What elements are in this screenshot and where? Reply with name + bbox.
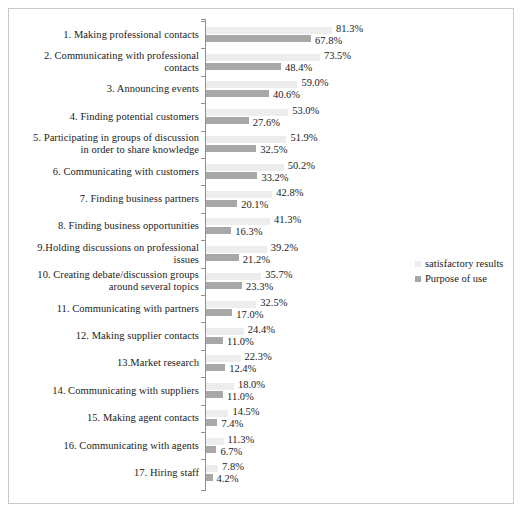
legend-item: satisfactory results (415, 257, 511, 272)
bar-pair: 51.9%32.5% (206, 131, 515, 158)
bar-pair: 18.0%11.0% (206, 377, 515, 404)
bar-purpose-of-use (206, 446, 216, 453)
bar-value-label: 7.8% (222, 462, 244, 473)
bar-pair: 42.8%20.1% (206, 185, 515, 212)
bar-value-label: 33.2% (261, 173, 288, 184)
bar-purpose-of-use (206, 309, 232, 316)
category-label: 3. Announcing events (23, 83, 199, 95)
bar-purpose-of-use (206, 364, 225, 371)
bar-row: 5. Participating in groups of discussion… (9, 131, 515, 158)
bar-row: 3. Announcing events59.0%40.6% (9, 76, 515, 103)
bar-satisfactory-results (206, 328, 244, 335)
bar-value-label: 27.6% (253, 118, 280, 129)
bar-pair: 14.5%7.4% (206, 405, 515, 432)
category-label: 4. Finding potential customers (23, 111, 199, 123)
bar-purpose-of-use (206, 254, 239, 261)
bar-value-label: 4.2% (217, 474, 239, 485)
axis-cap-top (201, 19, 206, 20)
category-label: 15. Making agent contacts (23, 412, 199, 424)
bar-purpose-of-use (206, 35, 311, 42)
bar-pair: 81.3%67.8% (206, 21, 515, 48)
bar-value-label: 14.5% (232, 407, 259, 418)
bar-value-label: 16.3% (235, 227, 262, 238)
bar-pair: 59.0%40.6% (206, 76, 515, 103)
bar-pair: 50.2%33.2% (206, 158, 515, 185)
bar-value-label: 17.0% (236, 310, 263, 321)
category-label: 9.Holding discussions on professional is… (23, 242, 199, 266)
bar-value-label: 67.8% (315, 36, 342, 47)
bar-row: 2. Communicating with professional conta… (9, 48, 515, 75)
bar-row: 7. Finding business partners42.8%20.1% (9, 185, 515, 212)
bar-value-label: 53.0% (292, 106, 319, 117)
category-label: 14. Communicating with suppliers (23, 385, 199, 397)
bar-pair: 22.3%12.4% (206, 350, 515, 377)
bar-row: 4. Finding potential customers53.0%27.6% (9, 103, 515, 130)
bar-value-label: 51.9% (290, 133, 317, 144)
bar-satisfactory-results (206, 410, 228, 417)
bar-value-label: 7.4% (221, 419, 243, 430)
bar-purpose-of-use (206, 200, 237, 207)
bar-value-label: 6.7% (220, 447, 242, 458)
bar-pair: 11.3%6.7% (206, 432, 515, 459)
legend-swatch-icon (415, 276, 421, 282)
legend-swatch-icon (415, 261, 421, 267)
category-label: 7. Finding business partners (23, 193, 199, 205)
legend-item: Purpose of use (415, 272, 511, 287)
category-label: 16. Communicating with agents (23, 440, 199, 452)
category-label: 10. Creating debate/discussion groups ar… (23, 269, 199, 293)
category-label: 12. Making supplier contacts (23, 330, 199, 342)
bar-satisfactory-results (206, 465, 218, 472)
bar-value-label: 22.3% (245, 352, 272, 363)
bar-satisfactory-results (206, 246, 267, 253)
bar-value-label: 39.2% (271, 243, 298, 254)
bar-satisfactory-results (206, 164, 284, 171)
bar-value-label: 73.5% (324, 51, 351, 62)
bar-row: 13.Market research22.3%12.4% (9, 350, 515, 377)
bar-satisfactory-results (206, 136, 286, 143)
bar-pair: 41.3%16.3% (206, 213, 515, 240)
bar-value-label: 11.0% (227, 337, 254, 348)
bar-value-label: 42.8% (276, 188, 303, 199)
bar-purpose-of-use (206, 90, 269, 97)
bar-row: 6. Communicating with customers50.2%33.2… (9, 158, 515, 185)
category-label: 17. Hiring staff (23, 467, 199, 479)
bar-satisfactory-results (206, 301, 256, 308)
bar-satisfactory-results (206, 383, 234, 390)
bar-row: 8. Finding business opportunities41.3%16… (9, 213, 515, 240)
bar-value-label: 35.7% (265, 270, 292, 281)
bar-purpose-of-use (206, 337, 223, 344)
bar-purpose-of-use (206, 227, 231, 234)
bar-satisfactory-results (206, 27, 332, 34)
bar-purpose-of-use (206, 391, 223, 398)
bar-row: 16. Communicating with agents11.3%6.7% (9, 432, 515, 459)
bar-row: 14. Communicating with suppliers18.0%11.… (9, 377, 515, 404)
bar-pair: 73.5%48.4% (206, 48, 515, 75)
chart-legend: satisfactory results Purpose of use (415, 257, 511, 287)
bar-satisfactory-results (206, 191, 272, 198)
bar-value-label: 21.2% (243, 255, 270, 266)
bar-satisfactory-results (206, 218, 270, 225)
bar-value-label: 40.6% (273, 90, 300, 101)
bar-value-label: 20.1% (241, 200, 268, 211)
bar-pair: 24.4%11.0% (206, 322, 515, 349)
bar-satisfactory-results (206, 54, 320, 61)
bar-satisfactory-results (206, 109, 288, 116)
bar-value-label: 11.0% (227, 392, 254, 403)
bar-purpose-of-use (206, 145, 256, 152)
bar-row: 11. Communicating with partners32.5%17.0… (9, 295, 515, 322)
bar-row: 17. Hiring staff7.8%4.2% (9, 459, 515, 486)
plot-area: 1. Making professional contacts81.3%67.8… (9, 9, 515, 503)
category-label: 2. Communicating with professional conta… (23, 50, 199, 74)
category-label: 6. Communicating with customers (23, 166, 199, 178)
bar-value-label: 11.3% (228, 435, 255, 446)
bar-satisfactory-results (206, 355, 241, 362)
category-label: 1. Making professional contacts (23, 29, 199, 41)
legend-label: satisfactory results (425, 257, 503, 271)
bar-satisfactory-results (206, 273, 261, 280)
axis-cap-bottom (201, 490, 206, 491)
bar-purpose-of-use (206, 172, 257, 179)
bar-pair: 7.8%4.2% (206, 459, 515, 486)
bar-row: 15. Making agent contacts14.5%7.4% (9, 405, 515, 432)
bar-row: 1. Making professional contacts81.3%67.8… (9, 21, 515, 48)
bar-value-label: 50.2% (288, 161, 315, 172)
